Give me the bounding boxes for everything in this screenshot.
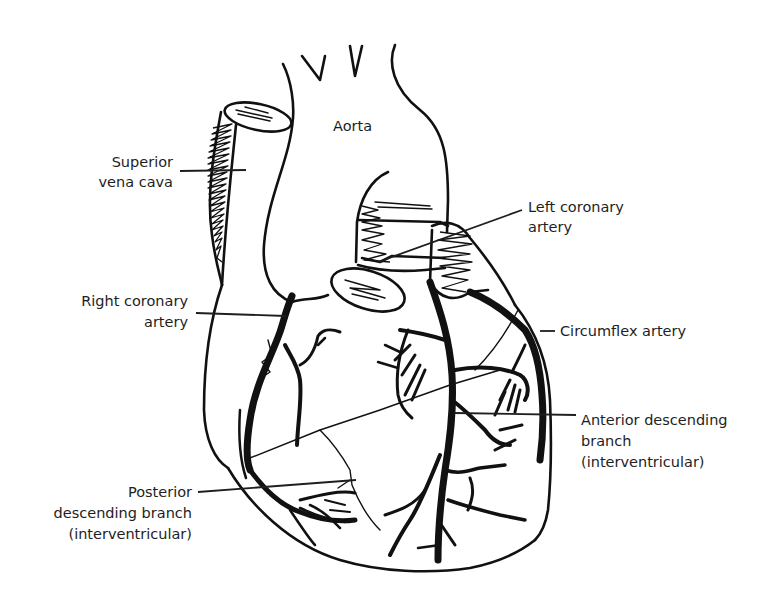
circumflex-artery [455,292,543,460]
label-adb-line3: (interventricular) [581,454,705,470]
leader-line-pdb [198,480,356,492]
label-pdb-line1: Posterior [128,484,192,500]
label-aorta-text: Aorta [333,118,372,134]
pulmonary-region [358,202,515,305]
label-lca-line1: Left coronary [528,199,624,215]
label-lca-line2: artery [528,219,572,235]
label-svc-line1: Superior [112,154,173,170]
label-posterior-descending-branch: Posterior descending branch (interventri… [54,480,356,542]
label-right-coronary-artery: Right coronary artery [81,293,286,330]
leader-line-rca [196,313,286,316]
label-pdb-line2: descending branch [54,505,192,521]
aortic-root [326,260,410,320]
label-rca-line1: Right coronary [81,293,188,309]
anterior-descending-branch [378,282,525,560]
label-adb-line2: branch [581,433,631,449]
label-rca-line2: artery [144,314,188,330]
label-circumflex-artery: Circumflex artery [540,323,686,339]
label-aorta: Aorta [333,118,372,134]
leader-line-svc [180,170,246,171]
superior-vena-cava [208,97,294,285]
aorta-outline [264,45,448,302]
label-circumflex-text: Circumflex artery [560,323,686,339]
leader-line-lca [378,210,522,262]
label-adb-line1: Anterior descending [581,412,728,428]
label-pdb-line3: (interventricular) [68,526,192,542]
leader-line-adb [454,413,576,415]
heart-diagram: Aorta Superior vena cava Left coronary a… [0,0,783,594]
label-svc-line2: vena cava [98,174,173,190]
